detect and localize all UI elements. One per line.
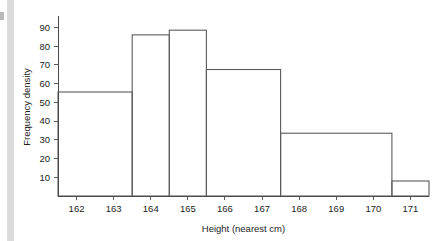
x-tick-label: 168 <box>291 203 307 214</box>
y-tick-label: 10 <box>39 172 50 183</box>
y-axis-ticks <box>54 27 58 177</box>
histogram-bar <box>281 133 392 196</box>
histogram-bar <box>206 70 280 196</box>
x-axis-title: Height (nearest cm) <box>202 223 285 234</box>
y-tick-label: 50 <box>39 97 50 108</box>
x-tick-label: 169 <box>328 203 344 214</box>
y-axis-tick-labels: 102030405060708090 <box>39 22 50 183</box>
y-tick-label: 40 <box>39 115 50 126</box>
x-tick-label: 164 <box>143 203 159 214</box>
x-tick-label: 162 <box>69 203 85 214</box>
x-axis-tick-labels: 162163164165166167168169170171 <box>69 203 419 214</box>
histogram-bar <box>169 30 206 196</box>
histogram-figure: 102030405060708090 162163164165166167168… <box>0 0 439 241</box>
y-tick-label: 70 <box>39 59 50 70</box>
x-tick-label: 163 <box>106 203 122 214</box>
x-tick-label: 167 <box>254 203 270 214</box>
x-axis-ticks <box>77 196 411 200</box>
x-tick-label: 170 <box>365 203 381 214</box>
y-tick-label: 60 <box>39 78 50 89</box>
y-tick-label: 30 <box>39 134 50 145</box>
y-tick-label: 20 <box>39 153 50 164</box>
x-tick-label: 165 <box>180 203 196 214</box>
histogram-bars <box>58 30 429 196</box>
y-axis-title: Frequency density <box>21 68 32 146</box>
y-tick-label: 90 <box>39 22 50 33</box>
histogram-bar <box>58 92 132 196</box>
x-tick-label: 171 <box>403 203 419 214</box>
y-tick-label: 80 <box>39 41 50 52</box>
histogram-bar <box>392 181 429 196</box>
x-tick-label: 166 <box>217 203 233 214</box>
frequency-density-histogram: 102030405060708090 162163164165166167168… <box>0 0 439 241</box>
histogram-bar <box>132 35 169 196</box>
